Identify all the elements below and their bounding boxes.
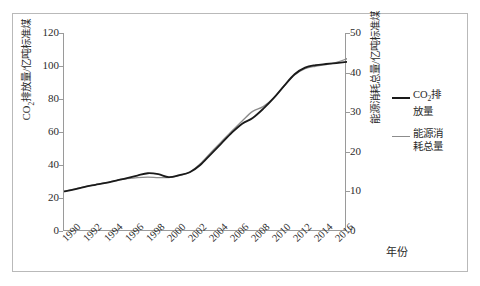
left-axis-tick-mark — [59, 33, 63, 34]
right-axis-tick-mark — [346, 191, 350, 192]
chart-legend: CO2排放量 能源消耗总量 — [392, 88, 462, 162]
left-axis-tick-mark — [59, 231, 63, 232]
left-axis-tick-mark — [59, 198, 63, 199]
right-axis-tick-mark — [346, 33, 350, 34]
line-co2-emission — [64, 62, 347, 192]
series-canvas — [64, 33, 347, 231]
right-axis-title: 能源消耗总量/亿吨标准煤 — [370, 0, 381, 143]
right-axis-tick-label: 0 — [350, 225, 378, 236]
chart-figure: 020406080100120 01020304050 199019921994… — [0, 0, 480, 286]
x-axis-title: 年份 — [386, 247, 408, 258]
left-axis-tick-label: 0 — [25, 225, 59, 236]
left-axis-tick-mark — [59, 165, 63, 166]
left-axis-tick-mark — [59, 132, 63, 133]
right-axis-tick-mark — [346, 112, 350, 113]
left-axis-title: CO2排放量/亿吨标准煤 — [21, 0, 36, 145]
right-axis-tick-mark — [346, 152, 350, 153]
line-energy-consumption — [64, 59, 347, 192]
legend-item-co2: CO2排放量 — [392, 88, 462, 118]
legend-line-swatch-energy-icon — [392, 131, 410, 142]
right-axis-tick-mark — [346, 231, 350, 232]
right-axis-tick-label: 10 — [350, 185, 378, 196]
legend-label-energy: 能源消耗总量 — [413, 127, 459, 153]
legend-label-co2: CO2排放量 — [413, 88, 459, 118]
right-axis-tick-label: 20 — [350, 146, 378, 157]
left-axis-tick-label: 20 — [25, 192, 59, 203]
left-axis-tick-mark — [59, 99, 63, 100]
legend-line-swatch-co2-icon — [392, 92, 410, 103]
left-axis-title-rest: 排放量/亿吨标准煤 — [21, 19, 32, 102]
plot-area — [63, 33, 346, 231]
right-axis-tick-mark — [346, 73, 350, 74]
left-axis-tick-label: 40 — [25, 159, 59, 170]
legend-item-energy: 能源消耗总量 — [392, 127, 462, 153]
left-axis-tick-mark — [59, 66, 63, 67]
